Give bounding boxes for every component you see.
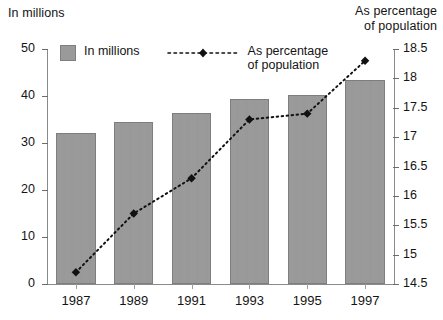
chart-legend: In millions As percentage of population	[60, 44, 328, 72]
right-tick-label: 18.5	[403, 41, 437, 55]
left-axis-title: In millions	[8, 6, 65, 20]
right-tick-mark	[393, 255, 399, 256]
right-tick-mark	[393, 196, 399, 197]
right-tick-label: 16	[403, 188, 437, 202]
right-tick-label: 18	[403, 70, 437, 84]
left-tick-mark	[42, 143, 48, 144]
legend-swatch-bar	[60, 45, 76, 61]
right-axis-title: As percentage of population	[355, 4, 437, 34]
legend-item-bar: In millions	[60, 44, 140, 61]
x-tick-mark	[134, 284, 135, 289]
right-tick-mark	[393, 284, 399, 285]
left-tick-label: 20	[7, 182, 35, 196]
x-axis-label-1997: 1997	[335, 293, 395, 308]
bar-1991	[172, 113, 211, 284]
left-tick-mark	[42, 96, 48, 97]
bar-texture	[173, 114, 210, 283]
bar-1987	[56, 133, 95, 284]
bar-1989	[114, 122, 153, 284]
x-tick-mark	[76, 284, 77, 289]
x-tick-mark	[365, 284, 366, 289]
line-marker-1997	[361, 57, 369, 65]
left-tick-mark	[42, 237, 48, 238]
left-tick-mark	[42, 284, 48, 285]
left-axis-line	[47, 49, 48, 285]
x-axis-label-1987: 1987	[46, 293, 106, 308]
right-tick-mark	[393, 78, 399, 79]
x-axis-label-1991: 1991	[162, 293, 222, 308]
legend-label-bar: In millions	[84, 44, 140, 58]
left-tick-mark	[42, 49, 48, 50]
x-axis-label-1989: 1989	[104, 293, 164, 308]
bar-1995	[288, 95, 327, 284]
right-tick-mark	[393, 49, 399, 50]
baseline-axis-line	[47, 284, 395, 285]
bar-1993	[230, 99, 269, 284]
bar-texture	[57, 134, 94, 283]
x-axis-label-1995: 1995	[277, 293, 337, 308]
right-tick-mark	[393, 167, 399, 168]
legend-line-marker-icon	[166, 45, 240, 61]
right-tick-label: 15	[403, 247, 437, 261]
left-tick-label: 0	[7, 276, 35, 290]
bar-texture	[231, 100, 268, 283]
left-tick-label: 10	[7, 229, 35, 243]
right-tick-mark	[393, 225, 399, 226]
right-tick-label: 17	[403, 129, 437, 143]
right-tick-label: 14.5	[403, 276, 437, 290]
right-tick-label: 17.5	[403, 100, 437, 114]
left-tick-label: 40	[7, 88, 35, 102]
legend-item-line: As percentage of population	[166, 44, 329, 72]
left-tick-label: 50	[7, 41, 35, 55]
bar-texture	[115, 123, 152, 283]
left-tick-mark	[42, 190, 48, 191]
bar-texture	[346, 81, 383, 283]
bar-1997	[345, 80, 384, 284]
right-tick-mark	[393, 137, 399, 138]
right-tick-label: 16.5	[403, 159, 437, 173]
right-tick-label: 15.5	[403, 217, 437, 231]
chart-root: In millions As percentage of population …	[0, 0, 443, 320]
x-tick-mark	[192, 284, 193, 289]
x-axis-label-1993: 1993	[219, 293, 279, 308]
bar-texture	[289, 96, 326, 283]
right-tick-mark	[393, 108, 399, 109]
legend-label-line: As percentage of population	[248, 44, 329, 72]
x-tick-mark	[307, 284, 308, 289]
left-tick-label: 30	[7, 135, 35, 149]
x-tick-mark	[249, 284, 250, 289]
